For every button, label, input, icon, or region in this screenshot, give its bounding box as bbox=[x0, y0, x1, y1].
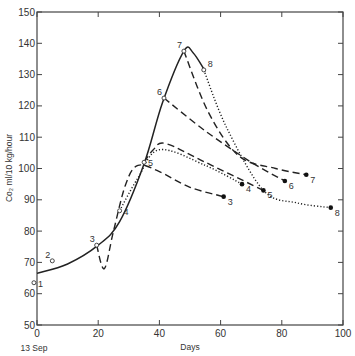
picking-point-5 bbox=[142, 160, 146, 164]
curves bbox=[37, 47, 331, 273]
y-tick-label: 130 bbox=[18, 69, 35, 80]
series-8-end-label: 8 bbox=[335, 208, 340, 218]
y-tick-label: 50 bbox=[24, 320, 36, 331]
y-tick-label: 140 bbox=[18, 38, 35, 49]
picking-point-8 bbox=[202, 68, 206, 72]
y-tick-label: 60 bbox=[24, 288, 36, 299]
picking-point-1-label: 1 bbox=[38, 279, 43, 289]
x-tick-label: 0 bbox=[34, 328, 40, 339]
series-7-end-label: 7 bbox=[310, 175, 315, 185]
picking-point-3 bbox=[95, 243, 99, 247]
series-8-end-marker bbox=[328, 205, 333, 210]
x-tick-label: 100 bbox=[335, 328, 352, 339]
series-3-end-marker bbox=[221, 194, 226, 199]
picking-point-7-label: 7 bbox=[177, 40, 182, 50]
y-tick-label: 110 bbox=[19, 132, 35, 143]
y-tick-label: 80 bbox=[24, 226, 36, 237]
y-tick-label: 120 bbox=[18, 100, 35, 111]
axes: 0204060801005060708090100110120130140150 bbox=[18, 7, 351, 340]
plot-frame bbox=[37, 12, 343, 325]
y-tick-label: 100 bbox=[18, 163, 35, 174]
series-3-end-label: 3 bbox=[228, 197, 233, 207]
picking-point-6 bbox=[162, 96, 166, 100]
series-7-end-marker bbox=[304, 172, 309, 177]
chart: 0204060801005060708090100110120130140150… bbox=[0, 0, 355, 356]
series-5-end-marker bbox=[261, 188, 266, 193]
y-tick-label: 90 bbox=[24, 194, 36, 205]
picking-point-1 bbox=[32, 281, 36, 285]
picking-point-7 bbox=[182, 49, 186, 53]
picking-point-3-label: 3 bbox=[90, 234, 95, 244]
picking-point-4-label: 4 bbox=[124, 207, 129, 217]
marks: 34567812345678 bbox=[32, 40, 340, 289]
series-8-line bbox=[204, 70, 331, 208]
y-tick-label: 70 bbox=[24, 257, 36, 268]
picking-point-8-label: 8 bbox=[208, 59, 213, 69]
series-6-end-marker bbox=[283, 179, 288, 184]
picking-point-4 bbox=[118, 209, 122, 213]
y-axis-label: Co₂ ml/10 kg/hour bbox=[4, 134, 14, 202]
picking-point-2 bbox=[50, 259, 54, 263]
x-tick-label: 20 bbox=[93, 328, 105, 339]
x-tick-label: 40 bbox=[154, 328, 166, 339]
x-start-label: 13 Sep bbox=[21, 343, 48, 353]
x-axis-label: Days bbox=[180, 342, 199, 352]
picking-point-2-label: 2 bbox=[45, 250, 50, 260]
main-curve bbox=[37, 47, 205, 273]
series-5-end-label: 5 bbox=[267, 190, 272, 200]
series-4-end-marker bbox=[240, 182, 245, 187]
x-tick-label: 60 bbox=[215, 328, 227, 339]
series-6-end-label: 6 bbox=[289, 181, 294, 191]
series-4-end-label: 4 bbox=[246, 184, 251, 194]
series-6-line bbox=[164, 98, 285, 181]
picking-point-5-label: 5 bbox=[148, 158, 153, 168]
picking-point-6-label: 6 bbox=[157, 87, 162, 97]
x-tick-label: 80 bbox=[276, 328, 288, 339]
series-3-line bbox=[97, 165, 224, 269]
y-tick-label: 150 bbox=[18, 7, 35, 18]
